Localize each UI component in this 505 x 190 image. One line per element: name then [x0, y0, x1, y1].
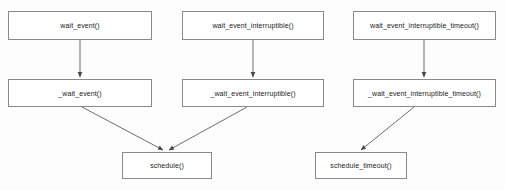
node-wait-event[interactable]: wait_event() [8, 11, 152, 40]
node-underscore-wait-event-label: _wait_event() [58, 89, 101, 98]
node-schedule-timeout[interactable]: schedule_timeout() [315, 152, 407, 179]
flowchart-diagram: wait_event() wait_event_interruptible() … [0, 0, 505, 190]
edge-underscore-wait-event-to-schedule [82, 107, 163, 150]
node-wait-event-interruptible-label: wait_event_interruptible() [212, 21, 293, 30]
node-schedule[interactable]: schedule() [122, 152, 212, 179]
node-schedule-timeout-label: schedule_timeout() [330, 161, 391, 170]
node-underscore-wait-event-interruptible-timeout-label: _wait_event_interruptible_timeout() [368, 89, 481, 98]
node-schedule-label: schedule() [150, 161, 184, 170]
edge-underscore-interruptible-timeout-to-schedule-timeout [361, 107, 414, 150]
node-underscore-wait-event-interruptible[interactable]: _wait_event_interruptible() [182, 79, 324, 107]
node-underscore-wait-event-interruptible-timeout[interactable]: _wait_event_interruptible_timeout() [353, 79, 496, 107]
edge-underscore-interruptible-to-schedule [169, 107, 247, 150]
node-underscore-wait-event[interactable]: _wait_event() [8, 79, 152, 107]
node-wait-event-interruptible-timeout[interactable]: wait_event_interruptible_timeout() [353, 11, 496, 40]
node-underscore-wait-event-interruptible-label: _wait_event_interruptible() [210, 89, 295, 98]
node-wait-event-interruptible-timeout-label: wait_event_interruptible_timeout() [370, 21, 479, 30]
node-wait-event-label: wait_event() [60, 21, 99, 30]
node-wait-event-interruptible[interactable]: wait_event_interruptible() [182, 11, 324, 40]
